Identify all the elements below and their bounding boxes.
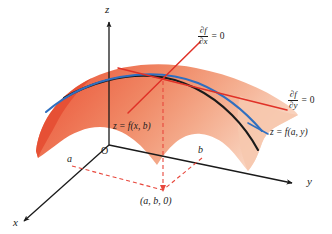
fraction-partial-f-partial-y: ∂f ∂y xyxy=(288,90,298,110)
dashed-b-to-base xyxy=(163,158,202,190)
partial-y-denominator: ∂y xyxy=(288,101,298,110)
dashed-a-to-base xyxy=(72,166,163,190)
fraction-partial-f-partial-x: ∂f ∂x xyxy=(198,26,208,46)
curve-label-trace-y: z = f(a, y) xyxy=(270,128,308,138)
partial-y-numerator: ∂f xyxy=(289,90,298,99)
y-axis-label: y xyxy=(307,176,312,187)
z-axis-label: z xyxy=(105,4,109,15)
partial-y-equals: = xyxy=(301,95,306,105)
partial-x-value: 0 xyxy=(220,31,225,41)
a-label: a xyxy=(67,154,72,164)
partial-x-equals: = xyxy=(211,31,216,41)
curve-label-trace-x: z = f(x, b) xyxy=(113,122,151,132)
tangent-label-partial-y: ∂f ∂y = 0 xyxy=(288,90,315,110)
partial-x-numerator: ∂f xyxy=(199,26,208,35)
origin-label: O xyxy=(101,146,108,156)
tangent-label-partial-x: ∂f ∂x = 0 xyxy=(198,26,225,46)
b-label: b xyxy=(198,145,203,155)
x-axis-label: x xyxy=(13,217,18,228)
dashed-arrowhead xyxy=(160,185,166,192)
base-point-label: (a, b, 0) xyxy=(140,196,172,206)
partial-x-denominator: ∂x xyxy=(198,37,208,46)
partial-y-value: 0 xyxy=(310,95,315,105)
